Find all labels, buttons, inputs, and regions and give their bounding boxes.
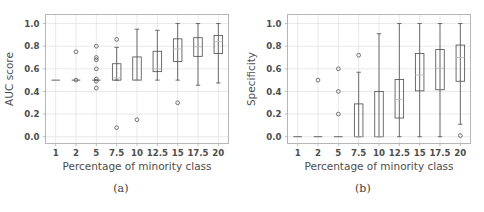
boxplot-specificity-svg: 1257.51012.51517.5200.00.20.40.60.81.0Pe… xyxy=(242,0,484,178)
xtick-label-0: 1 xyxy=(295,148,301,158)
ytick-label-2: 0.4 xyxy=(266,87,281,97)
boxplot-auc-score: 1257.51012.51517.5200.00.20.40.60.81.0Pe… xyxy=(0,0,242,178)
x-axis-label: Percentage of minority class xyxy=(304,160,453,172)
ytick-label-1: 0.2 xyxy=(266,109,281,119)
y-axis-label: Specificity xyxy=(245,52,257,106)
ytick-label-4: 0.8 xyxy=(266,41,281,51)
subfigure-b: 1257.51012.51517.5200.00.20.40.60.81.0Pe… xyxy=(242,0,484,212)
xtick-label-6: 15 xyxy=(172,148,184,158)
xtick-label-8: 20 xyxy=(212,148,224,158)
subfigure-a: 1257.51012.51517.5200.00.20.40.60.81.0Pe… xyxy=(0,0,242,212)
figure-row: 1257.51012.51517.5200.00.20.40.60.81.0Pe… xyxy=(0,0,484,212)
ytick-label-5: 1.0 xyxy=(266,19,281,29)
box-group-12.5 xyxy=(395,24,404,137)
box-group-15 xyxy=(415,24,424,137)
xtick-label-0: 1 xyxy=(53,148,59,158)
boxplot-auc-svg: 1257.51012.51517.5200.00.20.40.60.81.0Pe… xyxy=(0,0,242,178)
xtick-label-3: 7.5 xyxy=(351,148,366,158)
ytick-label-5: 1.0 xyxy=(24,19,39,29)
xtick-label-4: 10 xyxy=(131,148,143,158)
xtick-label-7: 17.5 xyxy=(187,148,208,158)
box-group-20 xyxy=(214,24,223,83)
box-group-17.5 xyxy=(436,24,445,137)
box-group-12.5 xyxy=(153,30,162,80)
xtick-label-6: 15 xyxy=(414,148,426,158)
xtick-label-7: 17.5 xyxy=(429,148,450,158)
ytick-label-0: 0.0 xyxy=(266,132,281,142)
subfigure-caption-b: (b) xyxy=(242,182,484,195)
xtick-label-2: 5 xyxy=(93,148,99,158)
box-group-17.5 xyxy=(194,24,203,86)
xtick-label-5: 12.5 xyxy=(147,148,168,158)
box-group-20 xyxy=(456,24,465,138)
xtick-label-4: 10 xyxy=(373,148,385,158)
ytick-label-2: 0.4 xyxy=(24,87,39,97)
ytick-label-3: 0.6 xyxy=(266,64,281,74)
ytick-label-1: 0.2 xyxy=(24,109,39,119)
y-axis-label: AUC score xyxy=(3,52,15,106)
xtick-label-1: 2 xyxy=(315,148,321,158)
xtick-label-2: 5 xyxy=(335,148,341,158)
xtick-label-1: 2 xyxy=(73,148,79,158)
xtick-label-3: 7.5 xyxy=(109,148,124,158)
ytick-label-3: 0.6 xyxy=(24,64,39,74)
boxplot-specificity: 1257.51012.51517.5200.00.20.40.60.81.0Pe… xyxy=(242,0,484,178)
ytick-label-0: 0.0 xyxy=(24,132,39,142)
xtick-label-8: 20 xyxy=(454,148,466,158)
ytick-label-4: 0.8 xyxy=(24,41,39,51)
xtick-label-5: 12.5 xyxy=(389,148,410,158)
x-axis-label: Percentage of minority class xyxy=(62,160,211,172)
box-group-10 xyxy=(375,34,384,137)
subfigure-caption-a: (a) xyxy=(0,182,242,195)
